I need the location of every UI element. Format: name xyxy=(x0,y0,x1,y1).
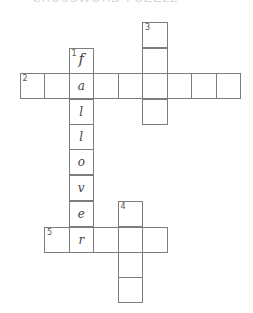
crossword-cell[interactable]: 3 xyxy=(142,22,168,48)
crossword-cell[interactable] xyxy=(167,73,193,99)
cell-letter: a xyxy=(70,78,94,94)
cell-letter: f xyxy=(70,51,94,67)
clue-number: 2 xyxy=(23,75,28,83)
crossword-cell[interactable] xyxy=(93,227,119,253)
crossword-cell[interactable] xyxy=(44,73,70,99)
crossword-cell[interactable] xyxy=(142,99,168,125)
crossword-cell[interactable]: 5 xyxy=(44,227,70,253)
crossword-cell[interactable]: v xyxy=(69,175,95,201)
crossword-cell[interactable] xyxy=(118,277,144,303)
cell-letter: v xyxy=(70,180,94,196)
puzzle-title-cropped: CROSSWORD PUZZLE xyxy=(32,0,182,3)
cell-letter: l xyxy=(70,129,94,145)
crossword-cell[interactable]: 2 xyxy=(20,73,46,99)
crossword-cell[interactable] xyxy=(93,73,119,99)
crossword-cell[interactable] xyxy=(142,73,168,99)
crossword-cell[interactable] xyxy=(142,48,168,74)
crossword-cell[interactable]: l xyxy=(69,99,95,125)
crossword-cell[interactable] xyxy=(142,227,168,253)
crossword-cell[interactable] xyxy=(118,73,144,99)
clue-number: 5 xyxy=(47,229,52,237)
crossword-cell[interactable]: e xyxy=(69,201,95,227)
crossword-cell[interactable] xyxy=(118,227,144,253)
crossword-cell[interactable]: 4 xyxy=(118,201,144,227)
crossword-cell[interactable] xyxy=(118,252,144,278)
cell-letter: l xyxy=(70,104,94,120)
crossword-cell[interactable]: 1f xyxy=(69,48,95,74)
cell-letter: r xyxy=(70,232,94,248)
clue-number: 3 xyxy=(145,24,150,32)
crossword-cell[interactable]: r xyxy=(69,227,95,253)
crossword-cell[interactable] xyxy=(216,73,242,99)
clue-number: 4 xyxy=(121,203,126,211)
crossword-cell[interactable]: l xyxy=(69,124,95,150)
crossword-cell[interactable]: a xyxy=(69,73,95,99)
crossword-cell[interactable] xyxy=(191,73,217,99)
cell-letter: e xyxy=(70,206,94,222)
crossword-cell[interactable]: o xyxy=(69,149,95,175)
cell-letter: o xyxy=(70,154,94,170)
